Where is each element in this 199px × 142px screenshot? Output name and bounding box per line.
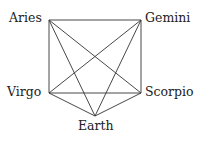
graph-diagram: Aries Gemini Virgo Scorpio Earth xyxy=(0,0,199,142)
node-label-gemini: Gemini xyxy=(145,12,190,25)
edge-gemini-earth xyxy=(95,20,141,116)
node-label-virgo: Virgo xyxy=(7,86,41,99)
edge-aries-earth xyxy=(49,20,95,116)
edge-virgo-earth xyxy=(49,93,95,116)
node-label-aries: Aries xyxy=(9,12,42,25)
edge-scorpio-earth xyxy=(95,93,141,116)
node-label-scorpio: Scorpio xyxy=(145,86,194,99)
node-label-earth: Earth xyxy=(78,120,114,133)
